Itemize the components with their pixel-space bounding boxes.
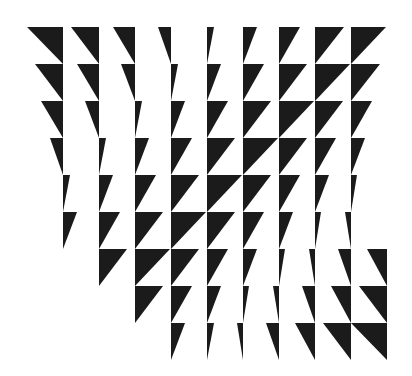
triangle-pattern-artwork <box>0 0 412 376</box>
